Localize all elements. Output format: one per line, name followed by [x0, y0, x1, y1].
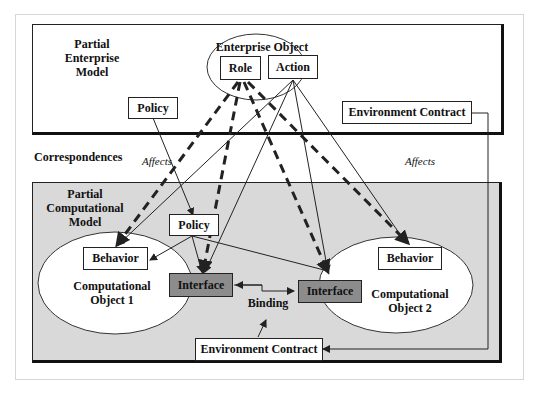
enterprise-environment-contract-box[interactable]: Environment Contract [342, 101, 472, 124]
correspondences-label: Correspondences [34, 150, 134, 164]
computational-object-2-label: Computational Object 2 [355, 287, 465, 315]
title-line: Model [40, 215, 130, 229]
name-line: Object 1 [62, 293, 162, 307]
computational-policy-box[interactable]: Policy [169, 214, 219, 236]
name-line: Computational [62, 279, 162, 293]
affects-right-label: Affects [400, 154, 440, 168]
interface-1-box[interactable]: Interface [169, 273, 233, 297]
behavior-2-box[interactable]: Behavior [378, 247, 442, 270]
enterprise-model-title: Partial Enterprise Model [52, 37, 132, 79]
affects-left-label: Affects [137, 154, 177, 168]
name-line: Object 2 [355, 301, 465, 315]
action-box[interactable]: Action [268, 55, 318, 79]
binding-label: Binding [243, 296, 293, 310]
role-box[interactable]: Role [220, 56, 261, 80]
computational-model-title: Partial Computational Model [40, 187, 130, 229]
title-line: Partial [40, 187, 130, 201]
title-line: Partial [52, 37, 132, 51]
interface-2-box[interactable]: Interface [298, 280, 362, 303]
enterprise-object-label: Enterprise Object [212, 40, 312, 54]
title-line: Model [52, 65, 132, 79]
title-line: Enterprise [52, 51, 132, 65]
computational-object-1-label: Computational Object 1 [62, 279, 162, 307]
title-line: Computational [40, 201, 130, 215]
enterprise-policy-box[interactable]: Policy [128, 97, 178, 119]
computational-environment-contract-box[interactable]: Environment Contract [195, 338, 323, 361]
behavior-1-box[interactable]: Behavior [83, 247, 148, 270]
name-line: Computational [355, 287, 465, 301]
